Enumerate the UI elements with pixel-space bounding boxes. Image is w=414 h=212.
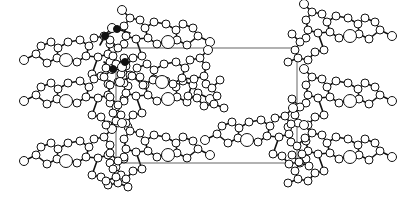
atom xyxy=(114,157,122,165)
crystal-packing-figure xyxy=(0,0,414,212)
atom xyxy=(254,138,262,146)
atom xyxy=(308,8,316,16)
atom xyxy=(90,135,98,143)
atom xyxy=(304,26,312,34)
atom xyxy=(361,79,369,87)
atom xyxy=(245,118,253,126)
atom xyxy=(150,131,158,139)
atom xyxy=(183,41,191,49)
atom xyxy=(136,16,144,24)
atom xyxy=(365,100,373,108)
atom xyxy=(129,54,137,62)
atom xyxy=(304,177,312,185)
atom xyxy=(60,155,73,168)
atom xyxy=(114,101,122,109)
atom xyxy=(271,114,279,122)
atom xyxy=(332,77,340,85)
atom xyxy=(326,149,334,157)
atom xyxy=(97,113,105,121)
atom xyxy=(308,129,316,137)
atom xyxy=(169,80,177,88)
atom xyxy=(118,6,127,15)
atom xyxy=(202,62,210,70)
atom xyxy=(43,160,51,168)
atom xyxy=(118,119,127,128)
atom xyxy=(186,56,194,64)
atom xyxy=(200,102,208,110)
atom xyxy=(326,28,334,36)
atom xyxy=(136,73,144,81)
atom xyxy=(100,73,108,81)
atom xyxy=(241,134,254,147)
molecule-row1-middle xyxy=(102,6,215,73)
atom xyxy=(122,145,130,153)
atom xyxy=(200,72,208,80)
atom xyxy=(183,154,191,162)
packing-diagram-canvas xyxy=(0,0,414,212)
atom xyxy=(160,60,168,68)
atom xyxy=(194,32,202,40)
atom xyxy=(323,83,331,91)
atom xyxy=(376,91,384,99)
atom xyxy=(311,169,319,177)
atoms-layer xyxy=(20,0,397,191)
atom xyxy=(289,104,298,113)
atom xyxy=(82,52,90,60)
atom xyxy=(47,38,55,46)
atom xyxy=(278,152,286,160)
atom xyxy=(335,155,343,163)
atom xyxy=(37,143,45,151)
atom xyxy=(73,159,81,167)
atom xyxy=(178,74,186,82)
atom xyxy=(141,24,149,32)
atom xyxy=(314,150,322,158)
atom xyxy=(304,91,312,99)
atom xyxy=(288,95,296,103)
atom xyxy=(133,64,141,72)
atom xyxy=(365,35,373,43)
molecule-row1-right xyxy=(284,0,397,66)
atom xyxy=(76,137,84,145)
atom xyxy=(294,54,302,62)
atom xyxy=(257,116,265,124)
atom xyxy=(300,0,309,9)
highlighted-atom xyxy=(122,59,129,66)
atom xyxy=(141,137,149,145)
atom xyxy=(47,139,55,147)
atom xyxy=(190,75,198,83)
atom xyxy=(371,83,379,91)
atom xyxy=(162,93,175,106)
atom xyxy=(216,76,224,84)
atom xyxy=(162,149,175,162)
atom xyxy=(218,122,226,130)
atom xyxy=(318,131,326,139)
molecule-row3-middle xyxy=(102,119,215,186)
atom xyxy=(90,34,98,42)
atom xyxy=(132,35,140,43)
atom xyxy=(220,104,228,112)
atom xyxy=(311,113,319,121)
atom xyxy=(308,73,316,81)
atom xyxy=(43,100,51,108)
atom xyxy=(136,129,144,137)
atom xyxy=(76,36,84,44)
atom xyxy=(109,165,117,173)
atom xyxy=(235,124,243,132)
atom xyxy=(301,134,309,142)
atom xyxy=(354,85,362,93)
atom xyxy=(332,133,340,141)
atom xyxy=(344,79,352,87)
atom xyxy=(311,48,319,56)
atom xyxy=(132,148,140,156)
atom xyxy=(94,94,102,102)
atom xyxy=(300,65,309,74)
atom xyxy=(94,53,102,61)
atom xyxy=(181,64,189,72)
atom xyxy=(122,89,130,97)
atom xyxy=(284,179,292,187)
atom xyxy=(300,121,309,130)
atom xyxy=(124,183,132,191)
atom xyxy=(94,154,102,162)
atom xyxy=(32,151,40,159)
atom xyxy=(344,30,357,43)
